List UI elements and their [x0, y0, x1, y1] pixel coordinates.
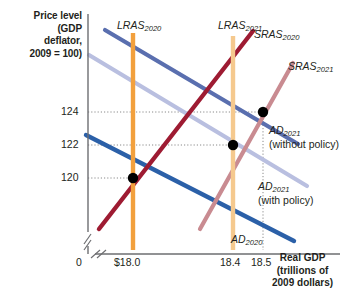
y-axis-title-line-4: 2009 = 100)	[29, 48, 82, 61]
curve-label-sras2020: SRAS2020	[254, 28, 300, 40]
curve-label-lras2020-name: LRAS	[117, 19, 144, 31]
curve-label-ad2021-with-note: (with policy)	[258, 194, 313, 207]
curve-ad2021-with-policy	[89, 55, 307, 186]
equilibrium-point-2021-with-policy	[228, 140, 238, 150]
y-tick-122: 122	[61, 138, 79, 150]
curve-label-sras2021: SRAS2021	[288, 60, 334, 72]
y-tick-124: 124	[61, 105, 79, 117]
curve-label-ad2021-without-name: AD	[269, 124, 284, 136]
axis-origin-label: 0	[76, 256, 82, 268]
x-tick-18-5: 18.5	[251, 256, 271, 268]
curve-label-ad2021-without-note: (without policy)	[269, 138, 339, 151]
y-axis-title-line-1: Price level	[29, 10, 82, 23]
y-axis-title-line-2: (GDP	[29, 23, 82, 36]
y-tick-120: 120	[61, 171, 79, 183]
curve-label-ad2020: AD2020	[231, 233, 263, 245]
x-tick-18-4: 18.4	[220, 256, 240, 268]
curve-label-ad2020-name: AD	[231, 233, 246, 245]
curve-label-ad2021-without-policy: AD2021 (without policy)	[269, 124, 339, 151]
curve-label-lras2020: LRAS2020	[117, 19, 161, 31]
y-axis-title: Price level (GDP deflator, 2009 = 100)	[29, 10, 82, 60]
curve-label-ad2021-without-policy-line1: AD2021	[269, 124, 339, 138]
curve-sras2020	[99, 31, 253, 229]
curve-label-lras2020-sub: 2020	[144, 24, 161, 33]
x-axis-title: Real GDP (trillions of 2009 dollars)	[272, 252, 333, 290]
curve-label-ad2020-sub: 2020	[246, 238, 263, 247]
curve-label-ad2021-with-sub: 2021	[273, 185, 290, 194]
x-axis-title-line-3: 2009 dollars)	[272, 277, 333, 290]
curve-label-ad2021-with-policy-line1: AD2021	[258, 180, 313, 194]
equilibrium-point-2020	[128, 173, 138, 183]
curve-label-ad2021-without-sub: 2021	[284, 129, 301, 138]
x-axis-title-line-1: Real GDP	[272, 252, 333, 265]
y-axis-title-line-3: deflator,	[29, 35, 82, 48]
curve-label-lras2021-name: LRAS	[218, 19, 245, 31]
x-axis-title-line-2: (trillions of	[272, 265, 333, 278]
curve-label-sras2021-name: SRAS	[288, 60, 317, 72]
curve-label-sras2020-sub: 2020	[283, 33, 300, 42]
ad-as-chart-figure: Price level (GDP deflator, 2009 = 100) R…	[0, 0, 346, 303]
curve-label-ad2021-with-policy: AD2021 (with policy)	[258, 180, 313, 207]
equilibrium-point-2021-without-policy	[258, 107, 268, 117]
curve-label-sras2021-sub: 2021	[317, 65, 334, 74]
curve-label-ad2021-with-name: AD	[258, 180, 273, 192]
x-tick-18-0: $18.0	[114, 256, 140, 268]
curve-label-sras2020-name: SRAS	[254, 28, 283, 40]
